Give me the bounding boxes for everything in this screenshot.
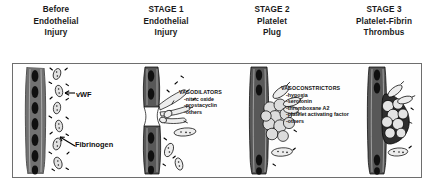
- header-stage-3: STAGE 3 Platelet-Fibrin Thrombus: [332, 4, 436, 39]
- callout-fibrinogen-label: Fibrinogen: [75, 140, 113, 149]
- header-stage-2: STAGE 2 Platelet Plug: [224, 4, 320, 39]
- header-line: Platelet-Fibrin: [332, 16, 436, 28]
- figure-stage-1: [129, 64, 237, 177]
- vasoconstrictors-title: VASOCONSTRICTORS: [281, 85, 349, 92]
- header-stage-1: STAGE 1 Endothelial Injury: [118, 4, 214, 39]
- header-line: Injury: [8, 27, 104, 39]
- vasodilators-list: VASODILATORS -nitric oxide -prostacyclin…: [179, 89, 222, 115]
- header-line: Endothelial: [8, 16, 104, 28]
- vasodilators-title: VASODILATORS: [179, 89, 222, 96]
- header-line: STAGE 3: [332, 4, 436, 16]
- header-line: STAGE 2: [224, 4, 320, 16]
- header-line: Before: [8, 4, 104, 16]
- vasoconstrictors-item: -serotonin: [281, 98, 349, 105]
- vasodilators-item: -prostacyclin: [179, 102, 222, 109]
- callout-fibrinogen: Fibrinogen: [75, 140, 113, 149]
- vasodilators-item: -others: [179, 109, 222, 116]
- vasoconstrictors-item: -thromboxane A2: [281, 105, 349, 112]
- callout-vwf-label: vWF: [76, 90, 92, 99]
- callout-vwf: vWF: [76, 90, 92, 99]
- vasoconstrictors-item: -others: [281, 118, 349, 125]
- diagram-panel: vWF Fibrinogen VASODILATORS -nitric oxid…: [12, 63, 422, 178]
- vasodilators-item: -nitric oxide: [179, 96, 222, 103]
- header-line: Thrombus: [332, 27, 436, 39]
- figure-stage-3: [357, 64, 421, 177]
- header-line: STAGE 1: [118, 4, 214, 16]
- vasoconstrictors-item: -platelet activating factor: [281, 111, 349, 118]
- header-before-injury: Before Endothelial Injury: [8, 4, 104, 39]
- vasoconstrictors-item: -hypoxia: [281, 92, 349, 99]
- header-line: Injury: [118, 27, 214, 39]
- vasoconstrictors-list: VASOCONSTRICTORS -hypoxia -serotonin -th…: [281, 85, 349, 125]
- figure-before-injury: [13, 64, 129, 177]
- header-line: Platelet: [224, 16, 320, 28]
- header-line: Plug: [224, 27, 320, 39]
- header-line: Endothelial: [118, 16, 214, 28]
- column-headers: Before Endothelial Injury STAGE 1 Endoth…: [0, 0, 437, 60]
